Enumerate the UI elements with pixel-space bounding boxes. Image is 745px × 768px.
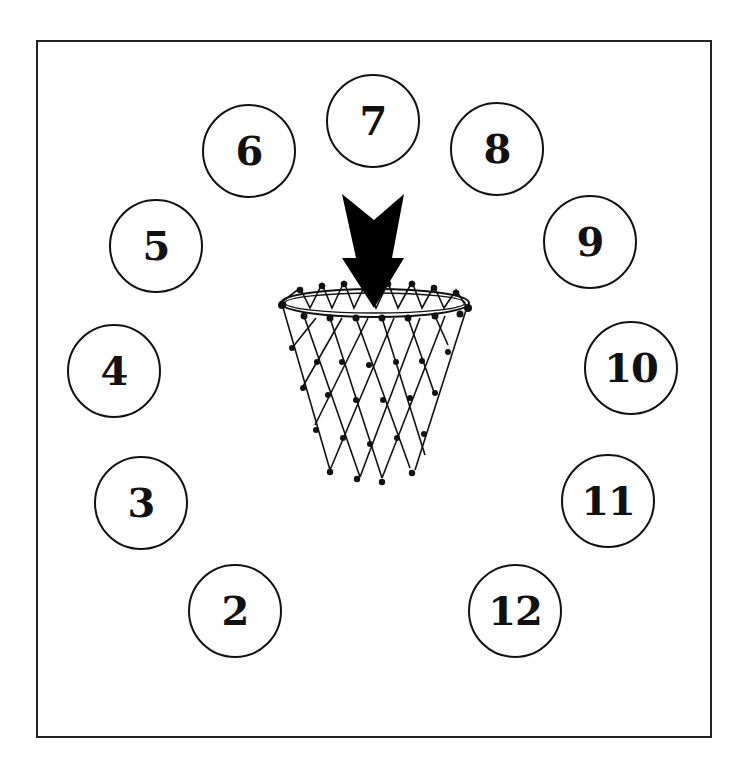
spot-11[interactable]: 11 [561,454,655,548]
spot-label: 4 [101,351,128,391]
spot-label: 7 [360,101,387,141]
spot-label: 2 [222,591,249,631]
spot-label: 6 [236,131,263,171]
spot-3[interactable]: 3 [94,456,188,550]
spot-label: 5 [143,226,170,266]
spot-4[interactable]: 4 [67,324,161,418]
spot-5[interactable]: 5 [109,199,203,293]
spot-label: 3 [128,483,155,523]
spot-12[interactable]: 12 [468,564,562,658]
hoop-net [282,282,468,478]
spot-label: 11 [581,481,635,521]
spot-label: 10 [604,348,658,388]
spot-label: 9 [577,222,604,262]
down-arrow-icon [342,194,404,308]
spot-label: 8 [484,129,511,169]
spot-10[interactable]: 10 [584,321,678,415]
basketball-hoop-icon [270,180,480,490]
spot-7[interactable]: 7 [326,74,420,168]
spot-label: 12 [488,591,542,631]
spot-2[interactable]: 2 [188,564,282,658]
spot-9[interactable]: 9 [543,195,637,289]
